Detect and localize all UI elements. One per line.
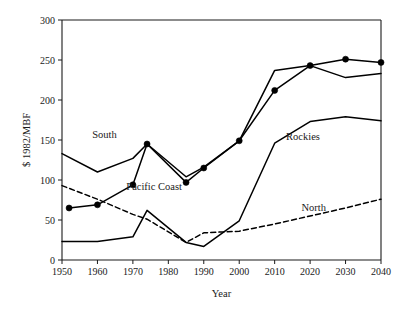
x-tick-label: 2000 xyxy=(229,266,249,277)
y-tick-label: 100 xyxy=(40,175,55,186)
data-point-marker xyxy=(144,141,150,147)
data-point-marker xyxy=(272,87,278,93)
series-label-pacific-coast: Pacific Coast xyxy=(126,181,182,192)
y-tick-label: 250 xyxy=(40,55,55,66)
series-annotations: SouthPacific CoastRockiesNorth xyxy=(92,129,326,213)
x-tick-label: 1970 xyxy=(123,266,143,277)
data-point-marker xyxy=(236,138,242,144)
y-tick-label: 200 xyxy=(40,95,55,106)
y-tick-label: 150 xyxy=(40,135,55,146)
series-label-rockies: Rockies xyxy=(286,131,320,142)
series-label-north: North xyxy=(301,202,326,213)
data-point-marker xyxy=(307,63,313,69)
series-layer xyxy=(62,56,384,246)
data-point-marker xyxy=(66,205,72,211)
x-tick-label: 2040 xyxy=(371,266,391,277)
series-line-south xyxy=(62,66,381,177)
x-tick-label: 1990 xyxy=(194,266,214,277)
x-tick-label: 2010 xyxy=(265,266,285,277)
data-point-marker xyxy=(378,59,384,65)
data-point-marker xyxy=(94,202,100,208)
y-tick-label: 0 xyxy=(50,255,55,266)
x-tick-label: 2020 xyxy=(300,266,320,277)
y-axis-title: $ 1982/MBF xyxy=(21,113,32,167)
x-axis-ticks: 1950196019701980199020002010202020302040 xyxy=(52,260,391,277)
x-tick-label: 2030 xyxy=(336,266,356,277)
x-tick-label: 1980 xyxy=(158,266,178,277)
y-tick-label: 300 xyxy=(40,15,55,26)
y-axis-ticks: 050100150200250300 xyxy=(40,15,62,266)
x-tick-label: 1960 xyxy=(87,266,107,277)
line-chart: 050100150200250300 195019601970198019902… xyxy=(0,0,411,309)
y-tick-label: 50 xyxy=(45,215,55,226)
x-axis-title: Year xyxy=(212,288,232,299)
chart-container: 050100150200250300 195019601970198019902… xyxy=(0,0,411,309)
data-point-marker xyxy=(343,56,349,62)
data-point-marker xyxy=(201,165,207,171)
x-tick-label: 1950 xyxy=(52,266,72,277)
data-point-marker xyxy=(183,179,189,185)
series-label-south: South xyxy=(92,129,117,140)
